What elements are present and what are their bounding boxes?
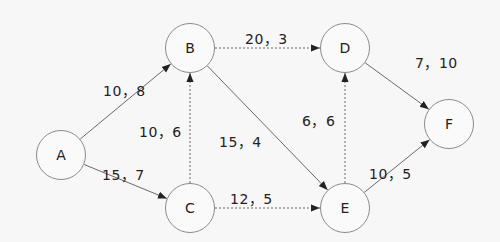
node-e: E <box>320 183 370 233</box>
edge-label-b-e: 15，4 <box>219 131 262 151</box>
edge-label-a-b: 10，8 <box>103 80 146 100</box>
node-a: A <box>36 130 86 180</box>
edge-label-e-f: 10，5 <box>369 163 412 183</box>
edge-label-d-f: 7，10 <box>415 52 458 72</box>
node-f: F <box>424 99 474 149</box>
node-b-label: B <box>185 40 195 56</box>
node-b: B <box>165 23 215 73</box>
node-c-label: C <box>185 200 195 216</box>
node-e-label: E <box>341 200 350 216</box>
edge-label-b-d: 20，3 <box>245 28 288 48</box>
node-a-label: A <box>56 147 66 163</box>
node-d: D <box>320 23 370 73</box>
node-f-label: F <box>445 116 453 132</box>
edge-label-a-c: 15，7 <box>102 164 145 184</box>
network-diagram: A B C D E F 10，8 15，7 20，3 15，4 10，6 12，… <box>0 0 500 242</box>
edge-label-c-b: 10，6 <box>139 121 182 141</box>
edge-label-e-d: 6，6 <box>302 110 335 130</box>
edge-label-c-e: 12，5 <box>230 188 273 208</box>
node-d-label: D <box>340 40 351 56</box>
node-c: C <box>165 183 215 233</box>
